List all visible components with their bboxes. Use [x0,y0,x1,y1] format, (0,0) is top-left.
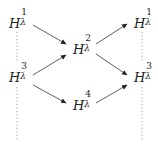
node-right-H1: H1λ [134,14,152,30]
node-superscript: 3 [21,62,27,71]
arrow-L1-to-M2 [33,25,66,44]
node-base: H [9,70,20,85]
node-subscript: λ [84,100,90,109]
node-superscript: 2 [85,34,91,43]
node-base: H [134,70,145,85]
arrow-M2-to-R1 [96,24,127,44]
node-base: H [9,16,20,31]
node-base: H [134,16,145,31]
arrow-L3-to-M2 [33,55,66,75]
node-subscript: λ [20,18,26,27]
arrow-L3-to-M4 [33,85,66,103]
node-superscript: 1 [146,8,152,17]
node-middle-H4: H4λ [73,96,91,112]
node-base: H [73,98,84,113]
diagram-canvas: H1λ H3λ H2λ H4λ H1λ H3λ [0,0,158,147]
node-subscript: λ [145,18,151,27]
node-left-H3: H3λ [9,68,27,84]
node-subscript: λ [145,72,151,81]
arrow-M2-to-R3 [96,54,127,75]
node-subscript: λ [84,44,90,53]
node-superscript: 4 [85,90,91,99]
node-left-H1: H1λ [9,14,27,30]
node-right-H3: H3λ [134,68,152,84]
node-subscript: λ [20,72,26,81]
node-middle-H2: H2λ [73,40,91,56]
node-superscript: 1 [21,8,27,17]
node-base: H [73,42,84,57]
node-superscript: 3 [146,62,152,71]
arrow-M4-to-R3 [96,85,127,103]
